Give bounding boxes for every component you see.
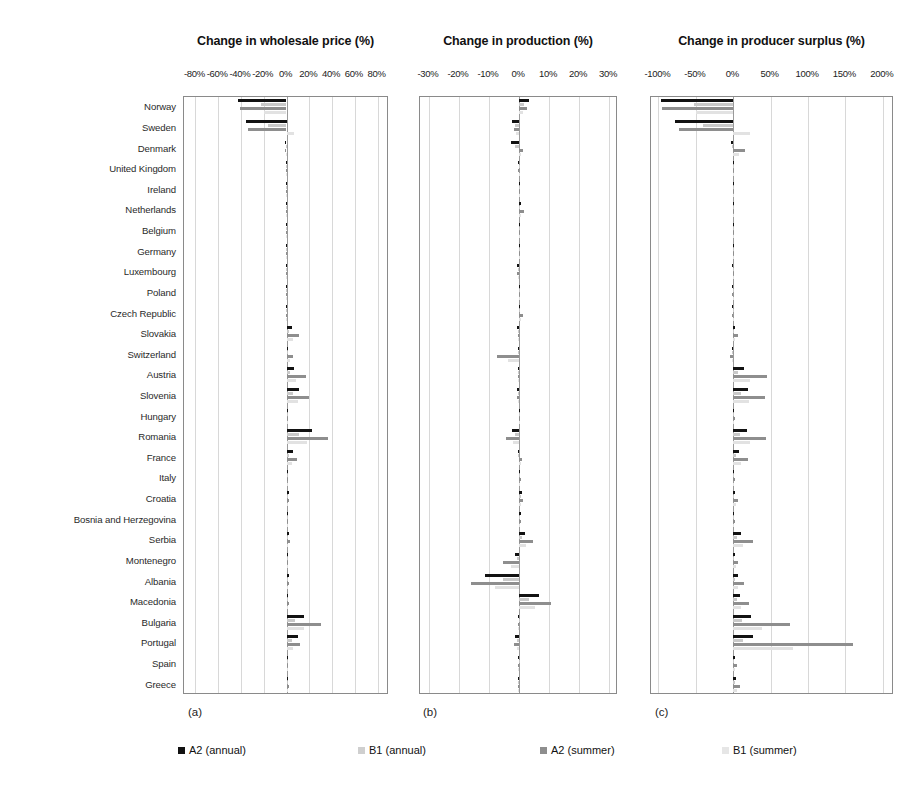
bar [733,470,734,473]
bar [519,532,525,535]
bar [733,474,734,477]
x-axis-tick [332,96,333,97]
x-tick-label: 0% [279,68,292,79]
gridline [658,97,659,693]
bar [517,557,519,560]
bar [264,111,287,114]
bar [287,334,300,337]
bar [287,396,310,399]
legend-label: B1 (summer) [733,744,797,756]
country-label: Serbia [149,534,176,545]
bar [733,677,736,680]
bar [518,454,519,457]
bar [733,524,734,527]
country-label: Romania [138,431,176,442]
bar [733,190,734,193]
bar [268,124,286,127]
bar [519,602,551,605]
bar [512,429,519,432]
legend-label: B1 (annual) [369,744,426,756]
bar [287,441,308,444]
bar [261,103,286,106]
legend-item: B1 (annual) [358,744,426,756]
panel-caption-b: (b) [423,706,437,718]
bar [287,458,297,461]
bar [287,561,289,564]
x-axis-tick [549,96,550,97]
gridline [309,97,310,693]
gridline [355,97,356,693]
bar [519,149,523,152]
bar [733,520,735,523]
bar [518,330,519,333]
bar [517,264,519,267]
bar [287,643,301,646]
bar [519,520,521,523]
bar [287,578,288,581]
x-tick-label: -50% [684,68,705,79]
bar [518,276,519,279]
bar [733,272,734,275]
bar [733,602,749,605]
gridline [808,97,809,693]
bar [519,499,523,502]
bar [513,441,519,444]
x-tick-label: 30% [599,68,617,79]
bar [733,643,853,646]
gridline [332,97,333,693]
bar [287,347,289,350]
bar [519,210,524,213]
bar [519,173,520,176]
bar [733,297,734,300]
bar [733,689,736,692]
x-axis-tick [429,96,430,97]
bar [733,565,736,568]
bar [287,400,298,403]
bar [286,182,287,185]
gridline [195,97,196,693]
bar [246,120,287,123]
bar [518,392,519,395]
bar [519,297,520,300]
bar [519,206,520,209]
bar [286,190,287,193]
bar [733,681,734,684]
bar [733,627,761,630]
bar [733,544,743,547]
bar [515,635,519,638]
bar [733,503,736,506]
bar [733,540,752,543]
country-label: Ireland [147,183,176,194]
gridline [883,97,884,693]
bar [732,314,733,317]
bar [519,409,520,412]
bar [733,578,735,581]
bar [287,660,288,663]
bar [287,470,288,473]
x-tick-label: -80% [184,68,205,79]
bar [519,186,520,189]
bar [519,202,521,205]
bar [733,392,740,395]
bar [679,128,733,131]
bar [518,668,519,671]
x-tick-label: -40% [229,68,250,79]
bar [733,450,739,453]
bar [511,565,519,568]
bar [733,202,734,205]
bar [733,557,734,560]
bar [733,161,734,164]
bar [286,173,287,176]
bar [287,623,321,626]
legend-item: A2 (annual) [178,744,246,756]
bar [733,685,740,688]
bar [733,429,746,432]
country-label: United Kingdom [109,163,176,174]
x-axis-tick [658,96,659,97]
bar [519,417,520,420]
country-label: Poland [147,286,176,297]
bar [518,623,519,626]
x-axis-tick [309,96,310,97]
x-axis-tick [287,96,288,97]
bar [732,305,733,308]
